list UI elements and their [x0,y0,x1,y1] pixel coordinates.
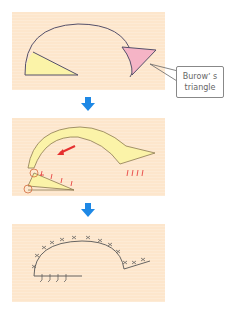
step-3-panel [12,224,165,302]
advancing-flap [28,127,155,168]
burows-triangle-callout: Burowʼ s triangle [176,66,224,98]
down-arrow-icon [81,97,95,111]
suture-line-curve [34,241,150,276]
step-2-illustration [12,118,165,196]
step-3-illustration [12,224,165,302]
callout-text-line1: Burowʼ s [177,71,223,82]
yellow-triangle [25,52,78,75]
base-triangle [28,173,74,190]
sutures [32,236,145,282]
down-arrow-icon [81,203,95,217]
callout-leader-line [140,55,180,85]
callout-text-line2: triangle [177,82,223,93]
tension-arrows-right [127,170,143,176]
step-2-panel [12,118,165,196]
